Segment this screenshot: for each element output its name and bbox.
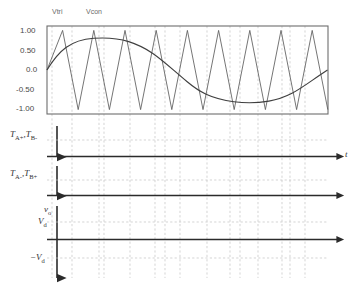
panel4-axis-name: vo [44,205,51,216]
panel3-label-sub1: A- [15,173,22,180]
panel3-axes [47,166,337,196]
panel4-level-negative: −Vd [30,253,45,264]
panel2-signal-label: TA+,TB- [10,130,37,141]
waveform-figure [0,0,359,286]
panel4-level-positive: Vd [38,217,47,228]
panel2-label-sub2: B- [31,134,38,141]
panel4-axis-name-sub: o [48,209,51,216]
ytick-label-3: 0.0 [26,66,37,74]
time-axis-label: t [345,150,348,159]
carrier-waveform-vtri [47,30,328,109]
ytick-label-5: -1.00 [16,105,34,113]
ytick-label-4: -0.50 [16,86,34,94]
vertical-gridlines [52,26,305,278]
panel2-axes [47,126,337,157]
panel4-level-pos-sub: d [44,221,47,228]
panel4-axes [47,206,337,278]
legend-label-vtri: Vtri [52,8,63,15]
panel4-level-neg-sub: d [42,257,45,264]
panel4-level-neg-main: −V [30,252,42,262]
figure-root: Vtri Vcon 1.00 0.50 0.0 -0.50 -1.00 TA+,… [0,0,359,286]
legend-label-vcon: Vcon [86,8,102,15]
ytick-label-1: 1.00 [20,27,36,35]
ytick-label-2: 0.50 [20,47,36,55]
panel3-signal-label: TA-,TB+ [10,169,37,180]
panel3-label-sub2: B+ [29,173,37,180]
control-waveform-vcon [47,38,328,103]
